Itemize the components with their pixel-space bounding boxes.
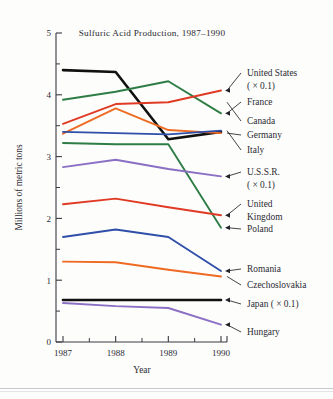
series-line-u-s-s-r[interactable] [63,160,221,177]
leader-arrowhead-united-states [225,88,230,93]
leader-arrowhead-france [225,111,230,116]
x-tick-label: 1987 [54,348,73,358]
chart-title: Sulfuric Acid Production, 1987–1990 [79,28,226,38]
series-label-ussr[interactable]: ( × 0.1) [247,180,275,191]
series-line-germany[interactable] [63,108,221,133]
sulfuric-acid-production-line-chart: 0123451987198819891990YearMillions of me… [0,0,333,399]
series-line-united-kingdom[interactable] [63,199,221,216]
leader-arrowhead-romania [225,269,230,274]
figure-canvas: 0123451987198819891990YearMillions of me… [0,0,333,399]
leader-arrowhead-ussr [225,174,230,179]
leader-arrowhead-poland [225,225,230,230]
leader-arrowhead-japan [225,298,230,303]
y-axis-ticks: 012345 [47,28,63,347]
page-divider-rule-secondary [0,391,333,392]
series-label-czechoslovakia[interactable]: Czechoslovakia [247,280,307,290]
series-label-italy[interactable]: Italy [247,145,264,155]
series-label-romania[interactable]: Romania [247,264,282,274]
x-tick-label: 1988 [107,348,126,358]
y-axis-title: Millions of metric tons [14,144,24,231]
series-line-france[interactable] [63,81,221,113]
x-axis-ticks: 1987198819891990 [54,336,231,358]
leader-line-italy [227,131,241,150]
y-tick-label: 5 [47,28,52,38]
series-line-czechoslovakia[interactable] [63,262,221,277]
x-axis-title: Year [133,365,151,375]
series-label-hungary[interactable]: Hungary [247,327,280,337]
page-divider-rule [0,388,333,389]
leader-arrowhead-united-kingdom [225,213,230,218]
series-label-germany[interactable]: Germany [247,130,282,140]
series-group [63,70,221,325]
series-label-united-kingdom[interactable]: Kingdom [247,212,283,222]
x-tick-label: 1989 [159,348,178,358]
series-label-poland[interactable]: Poland [247,224,273,234]
y-tick-label: 3 [47,152,52,162]
series-line-romania[interactable] [63,230,221,271]
series-label-united-states[interactable]: United States [247,68,298,78]
y-tick-label: 0 [47,337,52,347]
series-label-ussr[interactable]: U.S.S.R. [247,167,280,177]
leader-line-czechoslovakia [227,276,241,285]
series-label-united-kingdom[interactable]: United [247,199,273,209]
x-tick-label: 1990 [212,348,231,358]
leader-line-united-states [227,73,241,90]
series-label-canada[interactable]: Canada [247,116,276,126]
series-label-japan[interactable]: Japan ( × 0.1) [247,299,299,310]
annotations-group: United States( × 0.1)FranceCanadaGermany… [225,68,307,337]
series-label-united-states[interactable]: ( × 0.1) [247,81,275,92]
series-line-united-states[interactable] [63,70,221,139]
series-line-poland[interactable] [63,143,221,228]
y-tick-label: 4 [47,90,52,100]
axes [56,33,227,342]
y-tick-label: 1 [47,276,52,286]
y-tick-label: 2 [47,214,52,224]
leader-arrowhead-hungary [225,322,230,327]
series-line-hungary[interactable] [63,303,221,325]
series-label-france[interactable]: France [247,97,273,107]
